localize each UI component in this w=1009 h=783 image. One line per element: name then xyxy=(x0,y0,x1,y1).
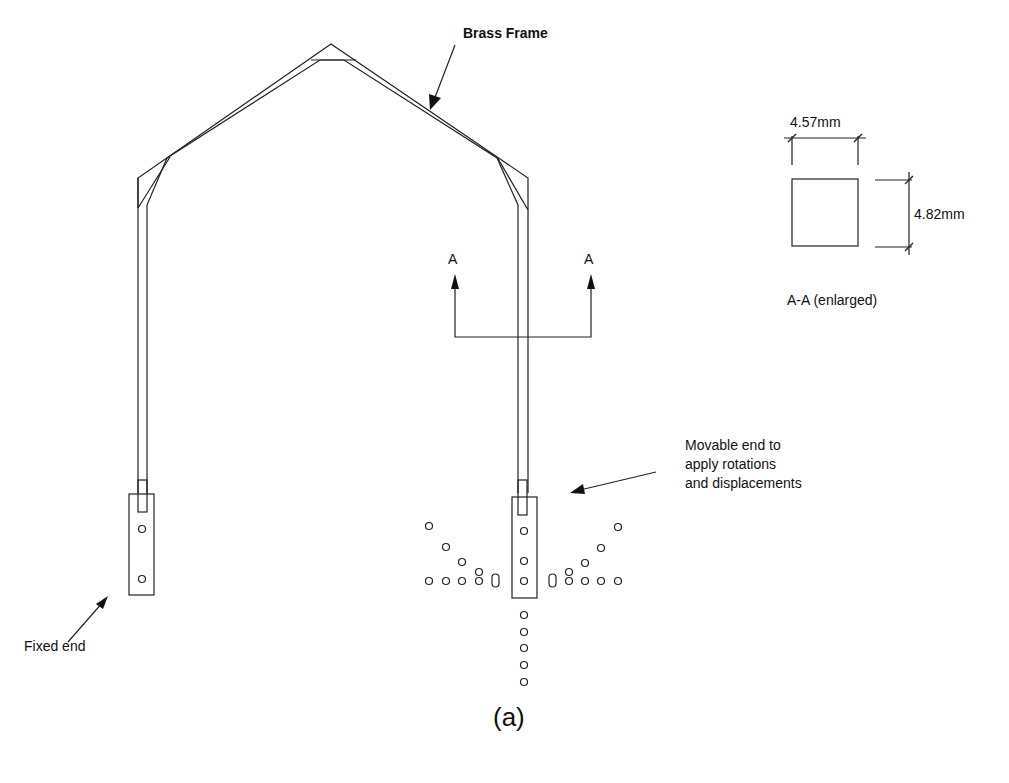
fixed-end-clamp xyxy=(129,480,154,595)
fixed-end-arrow xyxy=(68,596,108,642)
brass-frame-arrow xyxy=(429,45,455,110)
section-marker-right: A xyxy=(584,250,593,268)
movable-end-clamp xyxy=(512,480,537,598)
section-view xyxy=(784,134,913,255)
section-view-title: A-A (enlarged) xyxy=(787,291,877,309)
hole-pattern xyxy=(426,523,622,686)
section-marker-left: A xyxy=(448,250,457,268)
brass-frame xyxy=(138,44,528,493)
figure-caption: (a) xyxy=(493,702,525,733)
movable-end-arrow xyxy=(570,472,656,494)
section-height-dimension: 4.82mm xyxy=(914,205,965,223)
brass-frame-label: Brass Frame xyxy=(463,24,548,42)
section-cut-line xyxy=(451,274,595,337)
movable-end-label-line3: and displacements xyxy=(685,474,802,492)
fixed-end-label: Fixed end xyxy=(24,637,85,655)
movable-end-label-line1: Movable end to xyxy=(685,436,781,454)
frame-drawing xyxy=(0,0,1009,783)
section-width-dimension: 4.57mm xyxy=(790,113,841,131)
movable-end-label-line2: apply rotations xyxy=(685,455,776,473)
